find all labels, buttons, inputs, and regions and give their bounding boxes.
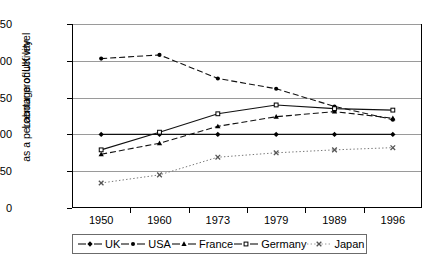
data-point-marker xyxy=(390,132,395,137)
data-point-marker xyxy=(216,76,220,80)
series-line xyxy=(101,55,393,120)
legend-label: Germany xyxy=(261,238,306,250)
legend-item-uk[interactable]: UK xyxy=(77,238,120,250)
data-point-marker xyxy=(332,132,337,137)
legend-swatch-uk xyxy=(77,238,103,250)
chart-container: Labour productivity as a percentage of U… xyxy=(0,0,439,262)
legend-label: France xyxy=(199,238,233,250)
legend-swatch-germany xyxy=(233,238,259,250)
legend-marker-diamond xyxy=(87,241,92,246)
legend-item-germany[interactable]: Germany xyxy=(233,238,306,250)
data-point-marker xyxy=(99,148,103,152)
data-point-marker xyxy=(158,130,162,134)
data-point-marker xyxy=(390,116,395,121)
data-point-marker xyxy=(99,57,103,61)
series-japan xyxy=(99,145,395,185)
legend-item-japan[interactable]: Japan xyxy=(306,238,364,250)
legend-swatch-usa xyxy=(120,238,146,250)
data-point-marker xyxy=(157,141,162,146)
series-line xyxy=(101,105,393,150)
data-point-marker xyxy=(215,132,220,137)
series-usa xyxy=(99,53,395,122)
series-uk xyxy=(99,132,396,137)
legend-marker-cross xyxy=(317,242,322,247)
data-point-marker xyxy=(391,108,395,112)
legend-label: Japan xyxy=(334,238,364,250)
data-point-marker xyxy=(274,87,278,91)
series-layer xyxy=(0,0,439,262)
data-point-marker xyxy=(157,53,161,57)
legend-swatch-france xyxy=(171,238,197,250)
series-line xyxy=(101,112,393,155)
legend-swatch-japan xyxy=(306,238,332,250)
data-point-marker xyxy=(157,173,162,178)
data-point-marker xyxy=(216,112,220,116)
data-point-marker xyxy=(391,145,396,150)
legend-label: UK xyxy=(105,238,120,250)
data-point-marker xyxy=(99,132,104,137)
data-point-marker xyxy=(216,155,221,160)
series-line xyxy=(101,148,393,183)
legend-item-france[interactable]: France xyxy=(171,238,233,250)
data-point-marker xyxy=(274,132,279,137)
legend-label: USA xyxy=(148,238,171,250)
data-point-marker xyxy=(274,103,278,107)
legend-marker-triangle xyxy=(181,241,186,246)
legend-item-usa[interactable]: USA xyxy=(120,238,171,250)
data-point-marker xyxy=(99,181,104,186)
data-point-marker xyxy=(333,107,337,111)
chart-legend: UKUSAFranceGermanyJapan xyxy=(72,234,367,254)
legend-marker-circle xyxy=(131,242,135,246)
legend-marker-square xyxy=(244,242,248,246)
